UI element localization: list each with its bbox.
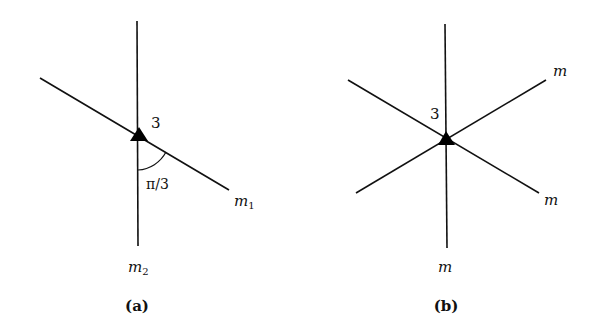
caption-a: (a) xyxy=(125,297,149,315)
vertex-label: 3 xyxy=(151,114,161,132)
line-label-m-top: m xyxy=(553,62,567,80)
angle-arc xyxy=(138,152,166,170)
panel-b: 3 m m m (b) xyxy=(348,24,567,315)
caption-b: (b) xyxy=(434,297,459,315)
line-label-m2: m2 xyxy=(128,258,149,277)
order-3-vertex-icon xyxy=(438,131,455,145)
diagram-canvas: 3 π/3 m1 m2 (a) 3 m m m (b) xyxy=(0,0,602,335)
panel-a: 3 π/3 m1 m2 (a) xyxy=(40,21,255,315)
angle-label: π/3 xyxy=(146,176,169,192)
line-label-m-bottom: m xyxy=(438,258,452,276)
order-3-vertex-icon xyxy=(130,127,148,141)
line-label-m1: m1 xyxy=(234,192,255,211)
vertex-label: 3 xyxy=(430,105,440,123)
line-label-m-right: m xyxy=(544,191,558,209)
mirror-line-asc xyxy=(356,80,546,193)
